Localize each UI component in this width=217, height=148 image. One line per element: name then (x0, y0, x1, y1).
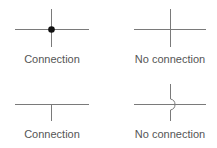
label-connection-tee: Connection (2, 128, 102, 140)
cross-no-dot-symbol (134, 9, 206, 47)
label-connection-dot: Connection (2, 53, 102, 65)
hop-over-symbol (134, 84, 206, 121)
junction-diagram (0, 0, 217, 148)
junction-dot-icon (48, 26, 55, 33)
label-no-connection-cross: No connection (120, 53, 217, 65)
label-no-connection-hop: No connection (120, 128, 217, 140)
tee-junction-symbol (15, 105, 89, 122)
